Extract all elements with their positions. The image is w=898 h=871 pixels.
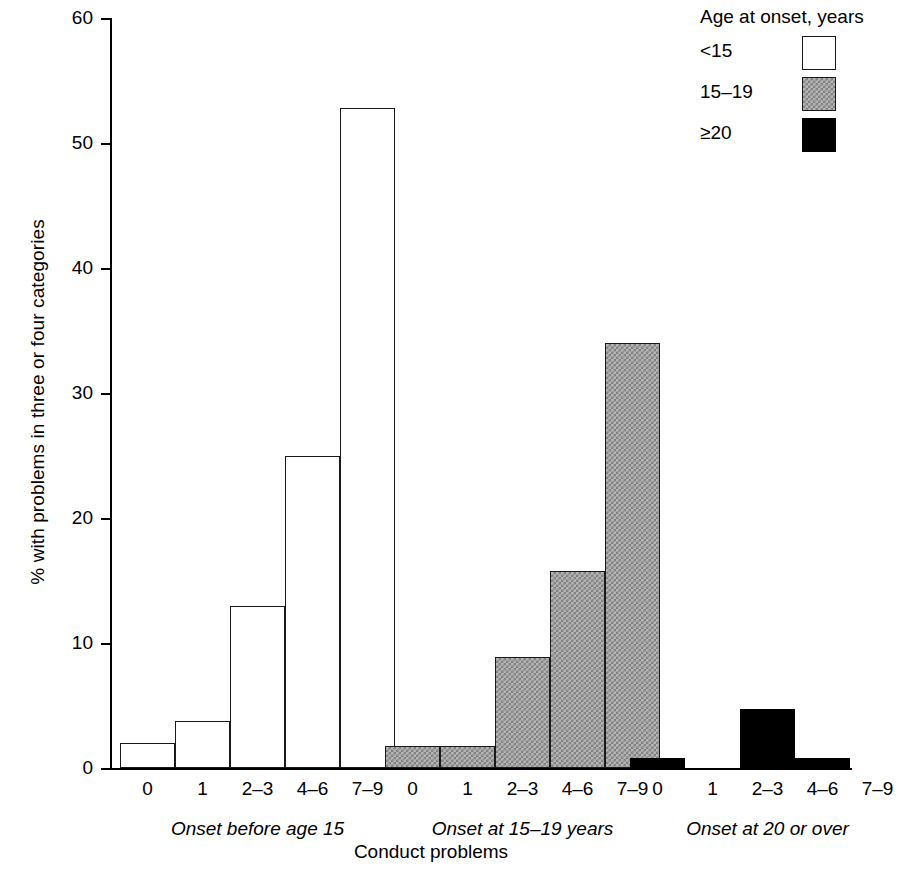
x-tick-label: 1 [175,778,230,800]
y-tick-label: 40 [72,257,93,279]
white-square-icon [802,36,836,70]
legend-entry-1: <15 [700,34,865,75]
x-tick-label: 1 [440,778,495,800]
legend-entry-label: <15 [700,40,732,62]
x-tick-label: 2–3 [495,778,550,800]
y-tick-label: 30 [72,382,93,404]
legend-entry-2: 15–19 [700,75,865,116]
y-tick-20: 20 [101,518,112,520]
bar-15-1 [175,721,230,769]
bar-15-7-9 [340,108,395,768]
y-tick-label: 10 [72,632,93,654]
bar-1519-1 [440,746,495,769]
y-tick-50: 50 [101,143,112,145]
bar-15-0 [120,743,175,768]
y-tick-label: 60 [72,7,93,29]
y-tick-label: 0 [82,757,93,779]
x-tick-label: 0 [385,778,440,800]
y-tick-40: 40 [101,268,112,270]
y-axis-title: % with problems in three or four categor… [27,142,49,662]
group-caption-3: Onset at 20 or over [612,818,898,840]
bar-15-2-3 [230,606,285,769]
x-tick-label: 0 [630,778,685,800]
x-axis-title: Conduct problems [0,841,862,863]
bar-15-4-6 [285,456,340,769]
x-tick-label: 4–6 [550,778,605,800]
y-tick-0: 0 [101,768,112,770]
bar-1519-4-6 [550,571,605,769]
bar-1519-0 [385,746,440,769]
y-tick-30: 30 [101,393,112,395]
bar-20-0 [630,758,685,768]
legend-title: Age at onset, years [700,6,865,28]
x-tick-label: 2–3 [740,778,795,800]
legend: Age at onset, years <1515–19≥20 [700,6,865,157]
x-tick-label: 0 [120,778,175,800]
y-tick-10: 10 [101,643,112,645]
legend-entry-label: ≥20 [700,122,732,144]
bar-1519-2-3 [495,657,550,768]
bar-20-4-6 [795,758,850,768]
x-tick-label: 7–9 [850,778,898,800]
y-tick-label: 20 [72,507,93,529]
bar-1519-7-9 [605,343,660,768]
legend-entry-3: ≥20 [700,116,865,157]
x-tick-label: 4–6 [795,778,850,800]
x-tick-label: 2–3 [230,778,285,800]
legend-entries: <1515–19≥20 [700,34,865,157]
y-tick-label: 50 [72,132,93,154]
y-tick-60: 60 [101,18,112,20]
x-tick-label: 4–6 [285,778,340,800]
x-axis-line [110,768,852,770]
black-square-icon [802,118,836,152]
legend-entry-label: 15–19 [700,81,753,103]
x-tick-label: 1 [685,778,740,800]
hatched-square-icon [802,77,836,111]
bar-20-2-3 [740,709,795,768]
